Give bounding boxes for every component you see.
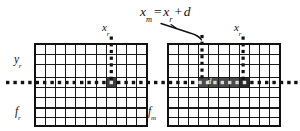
left-grid-border bbox=[35, 44, 147, 126]
right-image-sub: m bbox=[151, 114, 156, 122]
equation-lhs-sub: m bbox=[146, 15, 152, 24]
left-column-label: xr bbox=[102, 22, 110, 36]
equation-rhs-sub: r bbox=[169, 15, 172, 24]
disparity-equation: xm=xr+d bbox=[140, 5, 191, 22]
equation-disparity: d bbox=[184, 4, 191, 19]
left-xr-marker bbox=[110, 37, 113, 80]
disparity-band-label: d bbox=[207, 77, 212, 86]
right-xr-marker bbox=[242, 37, 245, 80]
left-image-label: fr bbox=[15, 106, 21, 120]
equation-equals: = bbox=[152, 4, 163, 19]
equation-leader-line bbox=[161, 24, 202, 41]
y-axis-label: yr bbox=[14, 54, 22, 68]
epipolar-scanline bbox=[6, 81, 298, 84]
mid-xm-marker bbox=[200, 35, 203, 78]
right-column-sub: r bbox=[239, 30, 242, 37]
y-axis-sub: r bbox=[19, 62, 22, 70]
matching-image-grid bbox=[168, 44, 280, 126]
right-column-label: xr bbox=[234, 22, 242, 36]
right-image-label: fm bbox=[148, 106, 156, 120]
left-image-sub: r bbox=[18, 114, 21, 122]
left-column-sub: r bbox=[107, 30, 110, 37]
reference-image-grid bbox=[35, 44, 147, 126]
equation-plus: + bbox=[173, 4, 184, 19]
